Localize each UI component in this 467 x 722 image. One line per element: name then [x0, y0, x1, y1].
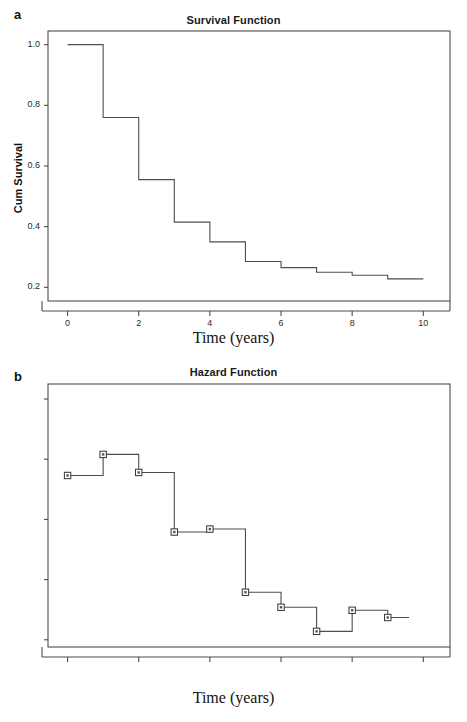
y-axis-title-cum-survival: Cum Survival — [12, 138, 24, 218]
y-tick-label: 0.4 — [6, 221, 40, 231]
y-tick-label: 0.6 — [6, 160, 40, 170]
data-point-marker — [278, 604, 284, 610]
data-point-marker — [136, 469, 142, 475]
data-point-marker — [349, 607, 355, 613]
survival-function-plot — [0, 0, 467, 360]
y-tick-label: 1.0 — [6, 39, 40, 49]
x-tick-label: 10 — [408, 318, 438, 328]
x-axis-title-time: Time (years) — [0, 329, 467, 347]
x-tick-label: 4 — [195, 318, 225, 328]
x-axis-title-time: Time (years) — [0, 689, 467, 707]
data-point-marker — [313, 628, 319, 634]
x-tick-label: 0 — [53, 318, 83, 328]
panel-hazard-function: b Hazard Function Hazard Time (years) 0.… — [0, 360, 467, 722]
data-point-marker — [385, 614, 391, 620]
data-point-marker — [100, 451, 106, 457]
data-point-marker — [64, 472, 70, 478]
data-point-marker — [242, 589, 248, 595]
data-point-marker — [171, 529, 177, 535]
panel-survival-function: a Survival Function Cum Survival Time (y… — [0, 0, 467, 360]
hazard-function-plot — [0, 360, 467, 722]
x-tick-label: 6 — [266, 318, 296, 328]
y-tick-label: 0.2 — [6, 281, 40, 291]
x-tick-label: 8 — [337, 318, 367, 328]
y-tick-label: 0.8 — [6, 99, 40, 109]
data-point-marker — [207, 526, 213, 532]
x-tick-label: 2 — [124, 318, 154, 328]
